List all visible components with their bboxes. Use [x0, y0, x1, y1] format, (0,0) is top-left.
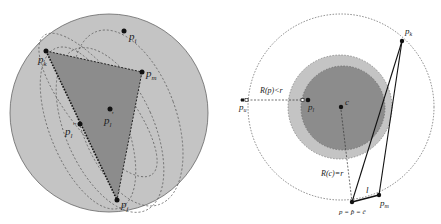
point-p-u-hollow [245, 99, 248, 102]
point-p-l-hollow [301, 99, 304, 102]
diagram-canvas: pi pk pm pl' pl'' pj pk pu pl c R(p)<r R… [0, 0, 441, 224]
point-p-bottom [350, 200, 354, 204]
point-p-k [44, 49, 49, 54]
label-R-p: R(p)<r [259, 86, 284, 95]
label-p-m: pm [379, 198, 390, 209]
label-bottom: p = p̂ = ĉ [338, 208, 366, 216]
point-p-m [377, 193, 381, 197]
edge-l [352, 195, 379, 202]
label-l: l [366, 185, 369, 195]
point-p-i [122, 29, 127, 34]
right-panel: pk pu pl c R(p)<r R(c)=r l pm p = p̂ = ĉ [238, 14, 434, 216]
label-R-c: R(c)=r [320, 169, 344, 178]
point-p-m [140, 70, 145, 75]
point-p-l-dprime [78, 122, 83, 127]
point-c [339, 105, 343, 109]
left-panel: pi pk pm pl' pl'' pj [10, 14, 208, 224]
point-p-j [115, 198, 120, 203]
label-c: c [345, 97, 349, 107]
label-p-k: pk [404, 26, 413, 37]
label-p-u: pu [238, 102, 247, 113]
point-p-k [400, 39, 404, 43]
